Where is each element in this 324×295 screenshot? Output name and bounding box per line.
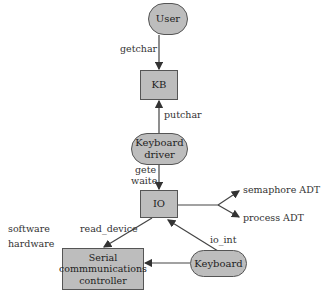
edge-label-putchar: putchar	[164, 109, 202, 120]
serial-label-2: commmunications	[59, 263, 147, 275]
edge-label-gete: gete	[135, 164, 156, 175]
kb-node: KB	[140, 70, 178, 100]
serial-label-3: controller	[79, 275, 126, 287]
serial-controller-node: Serial commmunications controller	[62, 248, 144, 290]
user-label: User	[156, 13, 180, 25]
serial-label-1: Serial	[89, 252, 117, 264]
kb-label: KB	[152, 79, 167, 91]
edge-label-read-device: read_device	[80, 223, 138, 234]
process-adt-label: process ADT	[243, 212, 304, 223]
keyboard-label: Keyboard	[194, 258, 242, 270]
user-node: User	[148, 3, 188, 35]
keyboard-driver-label-2: driver	[144, 149, 175, 161]
semaphore-adt-label: semaphore ADT	[243, 184, 320, 195]
keyboard-driver-node: Keyboard driver	[131, 133, 188, 165]
edge-label-io-int: io_int	[210, 234, 236, 245]
edge-label-waite: waite	[131, 175, 157, 186]
hardware-layer-label: hardware	[8, 238, 54, 249]
edge-label-getchar: getchar	[120, 43, 157, 54]
io-node: IO	[140, 190, 178, 218]
keyboard-driver-label-1: Keyboard	[135, 137, 183, 149]
io-label: IO	[153, 198, 165, 210]
software-layer-label: software	[8, 223, 50, 234]
keyboard-node: Keyboard	[190, 250, 247, 277]
